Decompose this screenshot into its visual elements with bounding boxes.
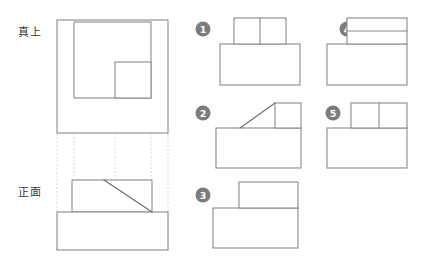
view-label-front: 正面	[18, 186, 41, 199]
option-marker-numeral-2: 2	[200, 108, 207, 119]
option-marker-numeral-5: 5	[330, 108, 337, 119]
projection-puzzle: 真上正面 12345	[0, 0, 421, 280]
answer-option-3[interactable]: 3	[196, 182, 299, 248]
front-view-lower-block	[57, 212, 168, 250]
answer-option-1[interactable]: 1	[196, 18, 301, 85]
answer-option-2[interactable]: 2	[196, 103, 302, 168]
orthographic-views-group: 真上正面	[18, 20, 168, 250]
answer-option-5[interactable]: 5	[326, 103, 408, 168]
option-base-block-1	[220, 44, 300, 85]
view-top: 真上	[18, 20, 168, 133]
view-label-top: 真上	[18, 25, 41, 39]
answer-option-4[interactable]: 4	[327, 18, 407, 85]
view-front: 正面	[18, 180, 168, 250]
option-base-block-5	[327, 128, 407, 168]
option-base-block-3	[213, 208, 298, 248]
option-base-block-4	[327, 44, 407, 85]
option-marker-numeral-3: 3	[200, 190, 207, 201]
answer-options-group: 12345	[196, 18, 408, 248]
option-top-block-3	[239, 182, 298, 208]
option-top-block-2	[275, 103, 301, 128]
figure-canvas: 真上正面 12345	[0, 0, 421, 280]
option-marker-numeral-1: 1	[200, 24, 207, 35]
option-diagonal-2	[240, 103, 275, 128]
top-view-inner-square	[115, 62, 151, 98]
option-base-block-2	[216, 128, 301, 168]
